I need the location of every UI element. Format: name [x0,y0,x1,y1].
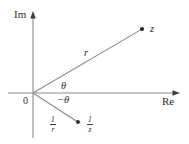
inverse-modulus-label: 1 r [50,116,56,134]
point-marker-inverse-z [76,120,80,124]
imaginary-axis-label: Im [14,9,26,20]
point-z-label: z [150,24,154,35]
inverse-point-label: 1 z [87,116,93,134]
angle-theta-label: θ [61,81,66,92]
origin-label: 0 [23,96,28,106]
inverse-modulus-denominator: r [50,126,56,134]
imaginary-axis-arrow [30,11,36,19]
point-marker-z [140,27,144,31]
figure-canvas [0,0,189,144]
inverse-modulus-numerator: 1 [50,116,56,124]
modulus-label: r [84,48,88,59]
real-axis-label: Re [162,96,174,107]
ray-to-z [33,30,141,93]
inverse-point-denominator: z [87,126,93,134]
complex-plane-figure: Im Re 0 r θ −θ z 1 r 1 z [0,0,189,144]
angle-negative-theta-label: −θ [57,95,69,106]
inverse-point-numerator: 1 [87,116,93,124]
